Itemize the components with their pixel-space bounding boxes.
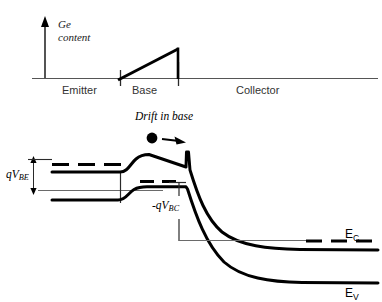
qvbe-label: qVBE <box>6 169 29 181</box>
region-label-collector: Collector <box>236 85 279 96</box>
qvbe-arrowhead-bottom-icon <box>30 188 36 195</box>
valence-band-label: EV <box>345 287 359 299</box>
region-label-base: Base <box>132 85 157 96</box>
region-label-emitter: Emitter <box>62 85 97 96</box>
qvbc-label-sub: BC <box>169 204 180 213</box>
conduction-band-label: EC <box>345 228 359 240</box>
qvbc-label: -qVBC <box>152 200 179 212</box>
qvbe-label-text: qV <box>6 168 19 180</box>
qvbe-label-sub: BE <box>19 173 29 182</box>
drift-arrow-head-icon <box>175 137 187 145</box>
band-diagram-panel <box>28 133 378 283</box>
figure-vector-layer <box>0 0 382 302</box>
ge-axis-label-line1: Ge <box>58 18 90 31</box>
qvbc-label-text: -qV <box>152 199 169 211</box>
valence-band-label-sub: V <box>353 292 359 302</box>
ge-axis-label: Ge content <box>58 18 90 44</box>
ge-profile-ramp <box>118 49 178 80</box>
conduction-band-label-sub: C <box>353 233 359 243</box>
valence-band-label-text: E <box>345 286 353 300</box>
valence-band-curve <box>52 187 378 283</box>
conduction-band-label-text: E <box>345 227 353 241</box>
figure-canvas: Ge content Emitter Base Collector Drift … <box>0 0 382 302</box>
electron-dot-icon <box>147 133 158 144</box>
drift-in-base-annotation: Drift in base <box>135 111 193 123</box>
ge-axis-arrowhead-icon <box>41 16 49 27</box>
ge-axis-label-line2: content <box>58 31 90 44</box>
